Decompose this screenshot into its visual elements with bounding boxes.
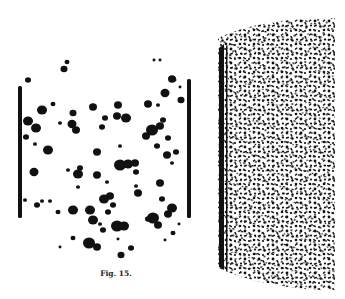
ink-blob <box>76 185 80 189</box>
ink-blob <box>160 117 166 123</box>
figure-15 <box>0 0 345 299</box>
ink-blob <box>65 60 70 65</box>
ink-blob <box>100 227 106 233</box>
ink-blob <box>178 97 185 103</box>
ink-blob <box>154 221 162 228</box>
figure-caption: Fig. 15. <box>98 269 134 278</box>
ink-blob <box>159 196 165 202</box>
ink-blob <box>119 221 129 230</box>
ink-blob <box>134 184 138 188</box>
ink-blob <box>37 105 47 114</box>
ink-blob <box>114 101 122 108</box>
ink-blob <box>25 77 31 83</box>
ink-blob <box>23 116 33 125</box>
ink-blob <box>85 205 95 214</box>
ink-blob <box>77 165 83 171</box>
ink-blob <box>156 122 164 129</box>
ink-blob <box>164 210 172 217</box>
ink-blob <box>33 142 37 146</box>
ink-blob <box>40 199 44 203</box>
ink-blob <box>56 210 61 215</box>
ink-blob <box>98 222 102 226</box>
ink-blob <box>61 66 68 72</box>
ink-blob <box>121 113 131 122</box>
ink-blob <box>30 168 39 176</box>
ink-blob <box>105 209 111 215</box>
ink-blob <box>145 216 151 222</box>
ink-blob <box>118 144 122 148</box>
ink-blob <box>23 134 29 140</box>
ink-blob <box>71 236 76 241</box>
ink-blob <box>131 159 139 166</box>
ink-blob <box>58 121 62 125</box>
ink-blob <box>159 59 162 62</box>
ink-blob <box>48 199 52 203</box>
ink-blob <box>72 126 80 133</box>
ink-blob <box>73 169 83 178</box>
ink-blob <box>156 179 164 186</box>
ink-blob <box>117 238 120 241</box>
specimen-outline-bar <box>187 79 191 218</box>
ink-blob <box>99 124 105 130</box>
ink-blob <box>89 103 97 110</box>
ink-blob <box>70 110 77 116</box>
ink-blob <box>161 89 170 97</box>
ink-blob <box>93 243 101 250</box>
ink-blob <box>153 59 156 62</box>
left-specimen <box>18 59 191 259</box>
ink-blob <box>105 180 109 184</box>
ink-blob <box>164 239 167 242</box>
ink-blob <box>170 161 174 165</box>
right-specimen <box>218 18 335 290</box>
ink-blob <box>68 205 78 214</box>
ink-blob <box>93 148 101 155</box>
ink-blob <box>88 215 98 224</box>
ink-blob <box>43 145 53 154</box>
ink-blob <box>59 246 62 249</box>
ink-blob <box>102 115 108 121</box>
ink-blob <box>66 168 70 172</box>
ink-blob <box>179 86 182 89</box>
ink-blob <box>34 202 40 208</box>
ink-blob <box>173 149 179 155</box>
ink-blob <box>51 102 56 107</box>
ink-blob <box>142 132 150 139</box>
ink-blob <box>171 231 176 236</box>
ink-blob <box>174 79 177 82</box>
ink-blob <box>178 223 181 226</box>
ink-blob <box>156 103 160 107</box>
specimen-outline-bar <box>18 86 22 218</box>
ink-blob <box>93 171 101 178</box>
ink-blob <box>118 252 125 258</box>
ink-blob <box>128 245 134 251</box>
ink-blob <box>133 169 139 175</box>
ink-blob <box>110 202 116 208</box>
ink-blob <box>31 123 41 132</box>
ink-blob <box>106 192 114 199</box>
ink-blob <box>154 143 160 149</box>
ink-blob <box>144 100 152 107</box>
ink-blob <box>113 112 121 119</box>
ink-blob <box>23 198 27 202</box>
right-specimen-edge <box>219 44 224 270</box>
ink-blob <box>163 151 171 158</box>
ink-blob <box>165 135 171 141</box>
ink-blob <box>134 189 142 196</box>
